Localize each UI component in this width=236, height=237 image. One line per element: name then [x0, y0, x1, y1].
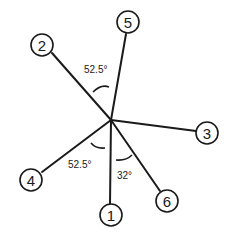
edge-5: [111, 34, 126, 120]
angle-arc-2-5: [93, 86, 109, 92]
star-diagram: 52.5° 52.5° 32° 1 2 3 4 5 6: [0, 0, 236, 237]
angle-arc-1-6: [116, 155, 132, 160]
angle-arc-4-1: [91, 143, 105, 148]
svg-text:1: 1: [107, 207, 115, 224]
node-1: 1: [100, 204, 122, 226]
angle-label-1-6: 32°: [117, 170, 132, 181]
node-3: 3: [196, 122, 218, 144]
edge-1: [110, 120, 111, 204]
svg-text:3: 3: [203, 125, 211, 142]
svg-text:5: 5: [124, 14, 132, 31]
svg-text:6: 6: [163, 193, 171, 210]
node-5: 5: [117, 11, 139, 33]
edge-3: [111, 120, 196, 131]
angle-label-4-1: 52.5°: [68, 159, 91, 170]
svg-text:2: 2: [38, 37, 46, 54]
node-2: 2: [31, 34, 53, 56]
svg-text:4: 4: [27, 172, 35, 189]
angle-label-2-5: 52.5°: [84, 64, 107, 75]
node-4: 4: [20, 169, 42, 191]
node-6: 6: [156, 190, 178, 212]
